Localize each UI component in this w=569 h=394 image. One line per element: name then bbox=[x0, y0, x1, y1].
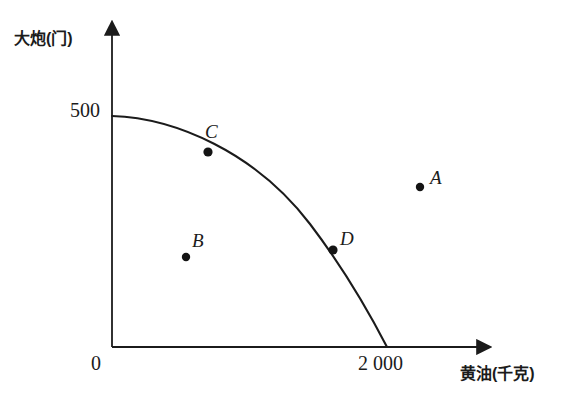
point-label-D: D bbox=[340, 228, 354, 250]
y-axis-title: 大炮(门) bbox=[14, 25, 73, 49]
x-axis-title: 黄油(千克) bbox=[460, 360, 535, 384]
y-axis-tick-label-500: 500 bbox=[70, 99, 100, 122]
point-label-C: C bbox=[205, 121, 218, 143]
origin-tick-label: 0 bbox=[91, 352, 101, 375]
point-label-A: A bbox=[430, 167, 442, 189]
point-marker-A bbox=[416, 183, 424, 191]
ppf-chart-figure: 大炮(门) 黄油(千克) 500 0 2 000 A B C D bbox=[0, 0, 569, 394]
point-marker-C bbox=[203, 147, 212, 156]
x-axis-tick-label-2000: 2 000 bbox=[358, 352, 403, 375]
point-marker-B bbox=[182, 253, 190, 261]
ppf-plot-canvas bbox=[0, 0, 569, 394]
point-label-B: B bbox=[192, 230, 204, 252]
point-marker-D bbox=[328, 245, 337, 254]
